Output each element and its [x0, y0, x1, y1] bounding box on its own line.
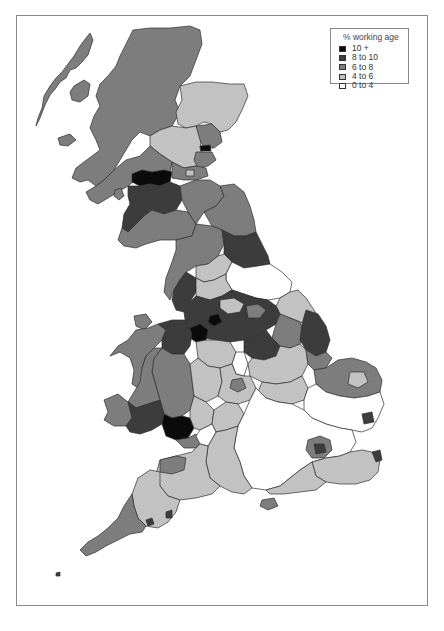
region-scilly — [56, 572, 60, 576]
legend-item-0-to-4: 0 to 4 — [339, 81, 408, 90]
legend-swatch-icon — [339, 55, 346, 61]
region-mull — [58, 134, 76, 146]
region-edinburgh — [186, 170, 194, 176]
region-fife — [194, 152, 216, 168]
legend-label: 0 to 4 — [352, 81, 373, 90]
region-south-wales-valleys — [162, 414, 194, 440]
region-arran — [114, 188, 124, 200]
legend-item-6-to-8: 6 to 8 — [339, 63, 408, 72]
legend-item-8-to-10: 8 to 10 — [339, 53, 408, 62]
region-outer-hebrides — [36, 33, 93, 126]
region-london-inner — [314, 444, 326, 454]
legend-swatch-icon — [339, 74, 346, 80]
legend-title: % working age — [343, 32, 408, 42]
legend: % working age 10 + 8 to 10 6 to 8 4 to 6… — [330, 28, 409, 84]
region-dundee — [200, 145, 211, 151]
region-south-west-wales — [126, 400, 164, 434]
legend-swatch-icon — [339, 64, 346, 70]
region-ipswich — [362, 412, 374, 424]
legend-item-4-to-6: 4 to 6 — [339, 72, 408, 81]
choropleth-map — [0, 0, 444, 631]
legend-swatch-icon — [339, 46, 346, 52]
legend-swatch-icon — [339, 83, 346, 89]
region-skye — [70, 80, 90, 102]
region-isle-of-wight — [260, 498, 278, 510]
